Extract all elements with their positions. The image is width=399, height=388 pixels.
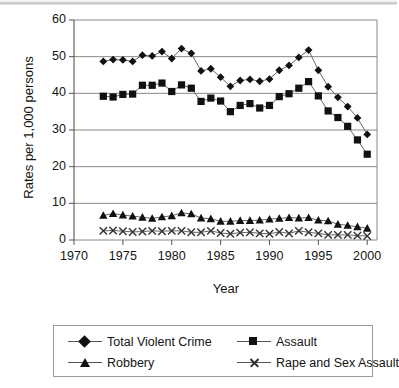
- data-point-diamond: [158, 48, 166, 56]
- data-point-square: [237, 102, 244, 109]
- legend-item[interactable]: Assault: [237, 333, 317, 351]
- legend-marker-cross-icon: [237, 356, 271, 370]
- data-point-diamond: [119, 56, 127, 64]
- data-point-square: [158, 79, 165, 86]
- series-3: [100, 227, 371, 240]
- data-point-diamond: [187, 49, 195, 57]
- data-point-square: [325, 107, 332, 114]
- x-tick-label: 1975: [98, 249, 148, 263]
- data-point-diamond: [314, 66, 322, 74]
- legend-item[interactable]: Rape and Sex Assault: [237, 354, 399, 372]
- x-tick-label: 1985: [196, 249, 246, 263]
- data-point-square: [364, 151, 371, 158]
- data-point-square: [315, 92, 322, 99]
- data-series-layer: [99, 45, 371, 240]
- x-axis-title: Year: [74, 281, 378, 296]
- data-point-square: [344, 123, 351, 130]
- x-tick-label: 1995: [293, 249, 343, 263]
- data-point-square: [295, 85, 302, 92]
- chart-legend: Total Violent CrimeAssaultRobberyRape an…: [53, 325, 373, 377]
- data-point-triangle: [304, 213, 312, 221]
- data-point-square: [168, 88, 175, 95]
- data-point-triangle: [334, 220, 342, 228]
- data-point-square: [149, 82, 156, 89]
- data-point-square: [276, 93, 283, 100]
- data-point-triangle: [177, 209, 185, 217]
- x-tick-label: 1970: [49, 249, 99, 263]
- data-point-square: [305, 78, 312, 85]
- series-line: [103, 82, 367, 155]
- legend-item[interactable]: Robbery: [68, 354, 154, 372]
- y-axis-title: Rates per 1,000 persons: [21, 33, 36, 223]
- data-point-diamond: [246, 76, 254, 84]
- data-point-square: [246, 100, 253, 107]
- data-point-square: [334, 114, 341, 121]
- legend-label: Robbery: [107, 356, 154, 370]
- x-tick-label: 2000: [342, 249, 392, 263]
- data-point-square: [227, 108, 234, 115]
- data-point-diamond: [197, 67, 205, 75]
- data-point-square: [217, 97, 224, 104]
- data-point-diamond: [305, 46, 313, 54]
- legend-label: Rape and Sex Assault: [276, 356, 399, 370]
- gridlines: [74, 20, 377, 240]
- data-point-square: [139, 82, 146, 89]
- y-axis-ticks: [69, 20, 74, 240]
- data-point-square: [266, 102, 273, 109]
- series-line: [103, 49, 367, 135]
- legend-marker-diamond-icon: [68, 335, 102, 349]
- x-axis-ticks: [74, 240, 367, 245]
- data-point-square: [109, 93, 116, 100]
- data-point-square: [188, 85, 195, 92]
- data-point-square: [178, 81, 185, 88]
- data-point-diamond: [99, 58, 107, 66]
- data-point-square: [285, 90, 292, 97]
- x-tick-label: 1990: [244, 249, 294, 263]
- data-point-square: [119, 91, 126, 98]
- data-point-diamond: [148, 52, 156, 60]
- data-point-diamond: [139, 51, 147, 59]
- data-point-triangle: [197, 214, 205, 222]
- legend-item[interactable]: Total Violent Crime: [68, 333, 212, 351]
- legend-label: Assault: [276, 335, 317, 349]
- y-tick-label: 60: [18, 12, 66, 26]
- legend-marker-triangle-icon: [68, 356, 102, 370]
- data-point-square: [100, 93, 107, 100]
- data-point-square: [354, 136, 361, 143]
- series-1: [100, 78, 371, 158]
- data-point-diamond: [129, 58, 137, 66]
- data-point-triangle: [109, 209, 117, 217]
- legend-marker-square-icon: [237, 335, 271, 349]
- data-point-square: [197, 98, 204, 105]
- data-point-diamond: [256, 77, 264, 85]
- series-0: [99, 45, 371, 139]
- x-tick-label: 1980: [147, 249, 197, 263]
- y-tick-label: 0: [18, 232, 66, 246]
- data-point-square: [256, 104, 263, 111]
- data-point-square: [207, 95, 214, 102]
- data-point-triangle: [285, 213, 293, 221]
- data-point-diamond: [363, 131, 371, 139]
- legend-label: Total Violent Crime: [107, 335, 212, 349]
- data-point-square: [129, 90, 136, 97]
- data-point-diamond: [236, 77, 244, 85]
